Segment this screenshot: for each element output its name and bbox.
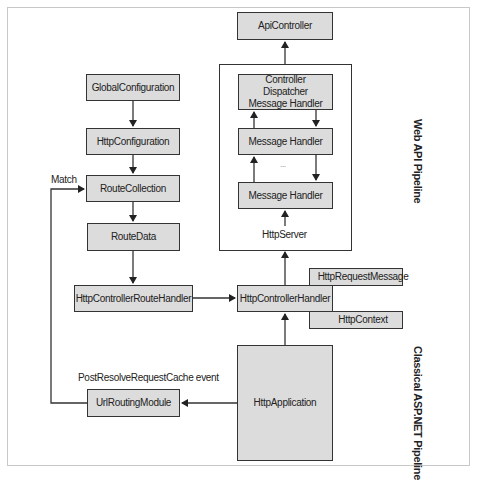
node-api-controller: ApiController	[237, 12, 333, 40]
node-message-handler-2: Message Handler	[238, 182, 333, 209]
web-api-pipeline-label: Web API Pipeline	[412, 119, 424, 203]
ellipsis-text: ...	[280, 160, 286, 169]
node-url-routing-module: UrlRoutingModule	[87, 389, 180, 417]
node-http-application: HttpApplication	[237, 345, 333, 461]
node-http-controller-handler: HttpControllerHandler	[237, 285, 333, 312]
node-http-controller-route-handler: HttpControllerRouteHandler	[74, 285, 193, 312]
http-server-label: HttpServer	[262, 229, 307, 240]
match-label: Match	[51, 174, 77, 185]
post-resolve-event-label: PostResolveRequestCache event	[78, 372, 219, 383]
node-global-configuration: GlobalConfiguration	[86, 74, 180, 101]
node-message-handler-1: Message Handler	[238, 128, 333, 155]
node-http-configuration: HttpConfiguration	[86, 128, 180, 155]
node-route-data: RouteData	[87, 223, 180, 251]
node-route-collection: RouteCollection	[86, 175, 180, 202]
node-http-request-message: HttpRequestMessage	[309, 268, 403, 286]
node-http-context: HttpContext	[309, 311, 403, 329]
classical-pipeline-label: Classical ASP.NET Pipeline	[412, 346, 424, 480]
node-controller-dispatcher: Controller Dispatcher Message Handler	[238, 74, 333, 110]
